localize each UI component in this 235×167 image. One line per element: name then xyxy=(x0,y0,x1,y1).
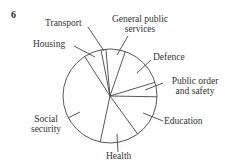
label-public-order-line1: Public order xyxy=(165,76,225,86)
label-education: Education xyxy=(164,116,203,126)
spoke-transport-gps xyxy=(106,49,110,96)
spoke-health-social xyxy=(100,96,110,142)
leader-defence xyxy=(137,60,151,73)
spoke-gps-defence xyxy=(110,52,125,96)
label-gps-line2: services xyxy=(101,24,179,34)
leader-social xyxy=(68,112,80,118)
spoke-publicorder-education xyxy=(110,96,157,97)
label-defence: Defence xyxy=(153,52,185,62)
label-social-line2: security xyxy=(24,124,68,134)
label-public-order-line2: and safety xyxy=(165,86,225,96)
label-transport: Transport xyxy=(45,18,82,28)
leader-health xyxy=(117,134,118,152)
spoke-education-health xyxy=(110,96,138,134)
label-general-public-services: General public services xyxy=(101,14,179,34)
label-social-line1: Social xyxy=(24,114,68,124)
leader-housing xyxy=(74,46,95,57)
label-housing: Housing xyxy=(33,39,65,49)
label-social-security: Social security xyxy=(24,114,68,134)
label-health: Health xyxy=(106,151,131,161)
label-public-order-and-safety: Public order and safety xyxy=(165,76,225,96)
label-gps-line1: General public xyxy=(101,14,179,24)
